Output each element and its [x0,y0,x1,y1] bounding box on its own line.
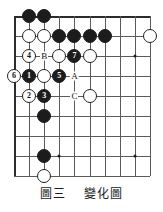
board-line-horizontal [14,116,150,117]
figure-caption: 圖三 變化圖 [0,184,163,201]
stone-white[interactable] [143,29,157,43]
star-point [58,155,61,158]
star-point [133,55,136,58]
caption-label: 圖三 [40,187,66,201]
stone-black[interactable] [98,29,112,43]
board-line-vertical [14,16,16,176]
stone-black-move-1[interactable]: 1 [22,69,36,83]
stone-white-move-2[interactable]: 2 [22,89,36,103]
stone-black[interactable] [83,29,97,43]
stone-black-move-5[interactable]: 5 [52,69,66,83]
stone-black[interactable] [22,9,36,23]
stone-white-move-4[interactable]: 4 [22,49,36,63]
board-line-horizontal [14,176,150,177]
stone-white-move-6[interactable]: 6 [7,69,21,83]
caption-title: 變化圖 [84,187,123,201]
stone-black[interactable] [67,29,81,43]
stone-white[interactable] [83,49,97,63]
point-mark-c[interactable]: C [70,92,78,101]
stone-black[interactable] [52,29,66,43]
stone-white[interactable] [37,69,51,83]
point-mark-b[interactable]: B [40,52,48,61]
stone-white[interactable] [37,29,51,43]
go-diagram-figure: BAC4761523 圖三 變化圖 [0,0,163,212]
stone-white[interactable] [83,89,97,103]
stone-white[interactable] [52,49,66,63]
go-board[interactable]: BAC4761523 [14,16,150,176]
stone-black[interactable] [37,149,51,163]
stone-white[interactable] [22,29,36,43]
stone-black-move-7[interactable]: 7 [67,49,81,63]
board-line-vertical [120,16,121,176]
board-line-vertical [135,16,136,176]
board-line-horizontal [14,156,150,157]
star-point [133,155,136,158]
stone-white[interactable] [37,169,51,183]
board-line-horizontal [14,136,150,137]
stone-black[interactable] [37,109,51,123]
stone-black[interactable] [37,9,51,23]
point-mark-a[interactable]: A [70,72,79,81]
stone-black-move-3[interactable]: 3 [37,89,51,103]
